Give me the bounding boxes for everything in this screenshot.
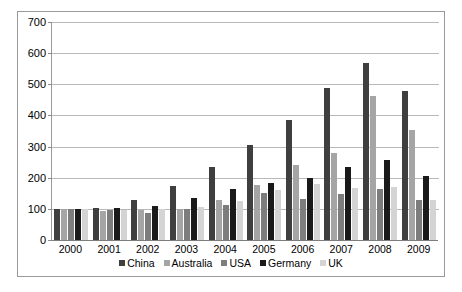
bar bbox=[170, 186, 176, 240]
bar bbox=[352, 188, 358, 240]
plot-area bbox=[51, 22, 438, 241]
legend-label: Australia bbox=[172, 258, 213, 269]
bar bbox=[275, 190, 281, 240]
x-axis-tick-label: 2009 bbox=[399, 242, 438, 256]
bar-group bbox=[399, 22, 438, 240]
legend-swatch-icon bbox=[320, 260, 326, 266]
legend-label: China bbox=[127, 258, 154, 269]
bar bbox=[377, 189, 383, 240]
bar bbox=[159, 209, 165, 240]
legend-item[interactable]: Australia bbox=[164, 258, 213, 269]
bar-group bbox=[206, 22, 245, 240]
chart-frame: 0100200300400500600700 20002001200220032… bbox=[17, 11, 445, 277]
bar bbox=[82, 209, 88, 240]
bar bbox=[223, 205, 229, 240]
bar bbox=[307, 178, 313, 240]
bar bbox=[286, 120, 292, 240]
y-axis: 0100200300400500600700 bbox=[18, 12, 50, 276]
bar bbox=[75, 209, 81, 240]
bar bbox=[107, 210, 113, 240]
bar bbox=[247, 145, 253, 240]
bar-group bbox=[361, 22, 400, 240]
bar-group bbox=[168, 22, 207, 240]
bar bbox=[138, 210, 144, 240]
bar bbox=[237, 201, 243, 240]
legend-swatch-icon bbox=[164, 260, 170, 266]
bar bbox=[416, 200, 422, 240]
y-axis-tick-label: 300 bbox=[28, 141, 46, 152]
bar bbox=[93, 208, 99, 240]
bar bbox=[402, 91, 408, 240]
bar-group bbox=[129, 22, 168, 240]
bar bbox=[345, 167, 351, 240]
legend-swatch-icon bbox=[119, 260, 125, 266]
x-axis-tick-label: 2000 bbox=[51, 242, 90, 256]
y-axis-tick-label: 700 bbox=[28, 17, 46, 28]
bar bbox=[363, 63, 369, 241]
bar bbox=[338, 194, 344, 240]
bar bbox=[331, 153, 337, 240]
legend-label: Germany bbox=[268, 258, 311, 269]
x-axis-tick-label: 2007 bbox=[322, 242, 361, 256]
y-axis-tick-label: 600 bbox=[28, 48, 46, 59]
legend-item[interactable]: Germany bbox=[260, 258, 311, 269]
chart-plot-wrapper: 0100200300400500600700 20002001200220032… bbox=[18, 12, 444, 276]
bar bbox=[209, 167, 215, 240]
legend-item[interactable]: China bbox=[119, 258, 154, 269]
bar bbox=[100, 211, 106, 240]
bar bbox=[293, 165, 299, 240]
bar bbox=[145, 213, 151, 240]
bar-group bbox=[322, 22, 361, 240]
bar bbox=[191, 198, 197, 240]
bar bbox=[324, 88, 330, 240]
bar-group bbox=[52, 22, 91, 240]
legend-item[interactable]: UK bbox=[320, 258, 343, 269]
x-axis: 2000200120022003200420052006200720082009 bbox=[51, 242, 438, 256]
bar bbox=[254, 185, 260, 240]
x-axis-tick-label: 2003 bbox=[167, 242, 206, 256]
chart-legend: ChinaAustraliaUSAGermanyUK bbox=[18, 258, 444, 269]
bar bbox=[300, 199, 306, 240]
bar bbox=[409, 130, 415, 240]
x-axis-tick-label: 2005 bbox=[245, 242, 284, 256]
bar bbox=[314, 184, 320, 240]
bar bbox=[268, 183, 274, 240]
bar bbox=[61, 209, 67, 240]
bar bbox=[177, 209, 183, 240]
bar bbox=[370, 96, 376, 240]
y-axis-tick-label: 0 bbox=[40, 235, 46, 246]
bar-group bbox=[245, 22, 284, 240]
legend-item[interactable]: USA bbox=[221, 258, 251, 269]
bar bbox=[114, 208, 120, 240]
x-axis-tick-label: 2008 bbox=[361, 242, 400, 256]
y-axis-tick-label: 400 bbox=[28, 110, 46, 121]
bar bbox=[152, 206, 158, 240]
y-axis-tick-label: 500 bbox=[28, 79, 46, 90]
bar bbox=[230, 189, 236, 240]
bar bbox=[54, 209, 60, 240]
y-axis-tick-label: 200 bbox=[28, 172, 46, 183]
legend-swatch-icon bbox=[221, 260, 227, 266]
bar bbox=[198, 207, 204, 240]
bar-group bbox=[91, 22, 130, 240]
bar bbox=[131, 200, 137, 240]
bar-group bbox=[284, 22, 323, 240]
bar bbox=[384, 160, 390, 240]
bars-layer bbox=[52, 22, 438, 240]
y-axis-tickmark bbox=[48, 240, 52, 241]
legend-label: USA bbox=[229, 258, 251, 269]
bar bbox=[430, 200, 436, 240]
x-axis-tick-label: 2006 bbox=[283, 242, 322, 256]
legend-swatch-icon bbox=[260, 260, 266, 266]
bar bbox=[423, 176, 429, 240]
x-axis-tick-label: 2004 bbox=[206, 242, 245, 256]
bar bbox=[261, 193, 267, 240]
y-axis-tick-label: 100 bbox=[28, 203, 46, 214]
bar bbox=[391, 187, 397, 240]
legend-label: UK bbox=[328, 258, 343, 269]
x-axis-tick-label: 2001 bbox=[90, 242, 129, 256]
bar bbox=[216, 200, 222, 240]
bar bbox=[68, 209, 74, 240]
bar bbox=[184, 209, 190, 240]
bar bbox=[121, 210, 127, 240]
